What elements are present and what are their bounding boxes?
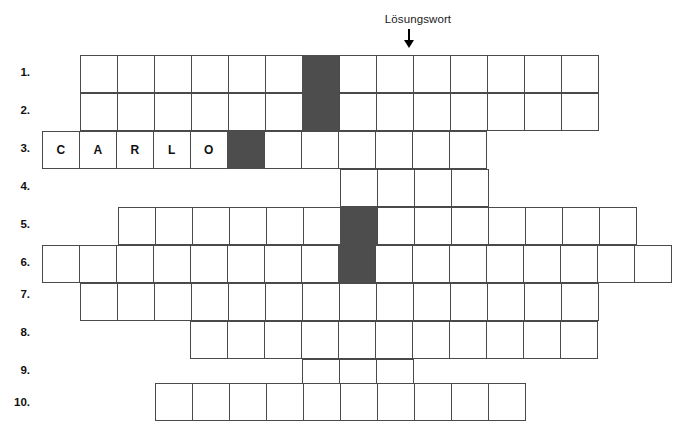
letter-cell[interactable] (414, 383, 452, 421)
letter-cell[interactable] (413, 93, 451, 131)
letter-cell[interactable] (265, 283, 303, 321)
letter-cell[interactable] (228, 283, 266, 321)
letter-cell[interactable] (560, 245, 598, 283)
letter-cell[interactable] (486, 321, 524, 359)
letter-cell[interactable] (412, 321, 450, 359)
letter-cell[interactable] (524, 283, 562, 321)
letter-cell[interactable] (487, 283, 525, 321)
letter-cell[interactable] (339, 93, 377, 131)
letter-cell[interactable] (449, 321, 487, 359)
letter-cell[interactable] (116, 245, 154, 283)
letter-cell[interactable] (228, 93, 266, 131)
letter-cell[interactable] (450, 283, 488, 321)
letter-cell[interactable] (376, 283, 414, 321)
letter-cell[interactable] (560, 321, 598, 359)
letter-cell[interactable] (228, 55, 266, 93)
letter-cell[interactable] (377, 207, 415, 245)
letter-cell[interactable] (265, 93, 303, 131)
letter-cell[interactable] (42, 245, 80, 283)
letter-cell[interactable] (634, 245, 672, 283)
letter-cell[interactable] (266, 207, 304, 245)
letter-cell[interactable] (80, 283, 118, 321)
letter-cell[interactable] (450, 93, 488, 131)
letter-cell[interactable] (525, 207, 563, 245)
letter-cell[interactable]: C (42, 131, 80, 169)
letter-cell[interactable] (561, 55, 599, 93)
letter-cell[interactable] (339, 283, 377, 321)
letter-cell[interactable] (597, 245, 635, 283)
letter-cell[interactable] (412, 131, 450, 169)
letter-cell[interactable] (487, 55, 525, 93)
letter-cell[interactable] (486, 245, 524, 283)
letter-cell[interactable] (192, 383, 230, 421)
letter-cell[interactable] (488, 207, 526, 245)
letter-cell[interactable] (449, 131, 487, 169)
letter-cell[interactable] (450, 55, 488, 93)
letter-cell[interactable] (413, 55, 451, 93)
letter-cell[interactable] (191, 283, 229, 321)
letter-cell[interactable] (523, 321, 561, 359)
letter-cell[interactable] (153, 245, 191, 283)
letter-cell[interactable] (301, 131, 339, 169)
letter-cell[interactable] (523, 245, 561, 283)
letter-cell[interactable] (264, 245, 302, 283)
letter-cell[interactable] (414, 207, 452, 245)
letter-cell[interactable] (118, 207, 156, 245)
letter-cell[interactable] (302, 283, 340, 321)
letter-cell[interactable] (303, 207, 341, 245)
letter-cell[interactable] (414, 169, 452, 207)
letter-cell[interactable] (561, 283, 599, 321)
letter-cell[interactable] (227, 321, 265, 359)
letter-cell[interactable] (449, 245, 487, 283)
letter-cell[interactable] (376, 93, 414, 131)
letter-cell[interactable] (524, 93, 562, 131)
letter-cell[interactable] (79, 245, 117, 283)
letter-cell[interactable] (190, 245, 228, 283)
letter-cell[interactable] (192, 207, 230, 245)
letter-cell[interactable] (488, 383, 526, 421)
letter-cell[interactable] (561, 93, 599, 131)
letter-cell[interactable] (412, 245, 450, 283)
letter-cell[interactable] (155, 207, 193, 245)
letter-cell[interactable] (117, 55, 155, 93)
letter-cell[interactable] (340, 383, 378, 421)
letter-cell[interactable] (451, 207, 489, 245)
letter-cell[interactable] (227, 245, 265, 283)
letter-cell[interactable]: O (190, 131, 228, 169)
letter-cell[interactable] (338, 131, 376, 169)
letter-cell[interactable] (155, 383, 193, 421)
letter-cell[interactable] (451, 169, 489, 207)
letter-cell[interactable] (377, 383, 415, 421)
letter-cell[interactable] (229, 207, 267, 245)
letter-cell[interactable]: A (79, 131, 117, 169)
letter-cell[interactable] (303, 383, 341, 421)
letter-cell[interactable] (301, 321, 339, 359)
letter-cell[interactable] (340, 169, 378, 207)
letter-cell[interactable] (190, 321, 228, 359)
letter-cell[interactable] (377, 169, 415, 207)
letter-cell[interactable] (191, 55, 229, 93)
letter-cell[interactable] (562, 207, 600, 245)
letter-cell[interactable] (376, 55, 414, 93)
letter-cell[interactable] (265, 55, 303, 93)
letter-cell[interactable] (301, 245, 339, 283)
letter-cell[interactable] (487, 93, 525, 131)
letter-cell[interactable] (154, 55, 192, 93)
letter-cell[interactable] (338, 321, 376, 359)
letter-cell[interactable] (229, 383, 267, 421)
letter-cell[interactable]: R (116, 131, 154, 169)
letter-cell[interactable] (154, 283, 192, 321)
letter-cell[interactable] (524, 55, 562, 93)
letter-cell[interactable] (413, 283, 451, 321)
letter-cell[interactable] (375, 131, 413, 169)
letter-cell[interactable] (451, 383, 489, 421)
letter-cell[interactable] (154, 93, 192, 131)
letter-cell[interactable] (375, 321, 413, 359)
letter-cell[interactable] (339, 55, 377, 93)
letter-cell[interactable] (191, 93, 229, 131)
letter-cell[interactable] (264, 131, 302, 169)
letter-cell[interactable] (264, 321, 302, 359)
letter-cell[interactable] (80, 93, 118, 131)
letter-cell[interactable] (375, 245, 413, 283)
letter-cell[interactable] (266, 383, 304, 421)
